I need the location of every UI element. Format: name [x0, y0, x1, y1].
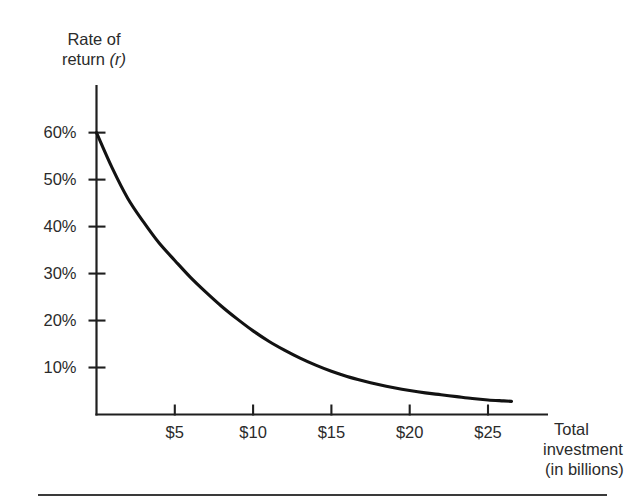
footer-divider-rule: [38, 494, 607, 496]
y-axis-tick-label: 60%: [21, 123, 77, 142]
x-axis-tick-label: $20: [380, 423, 440, 442]
x-axis-title: Total investment (in billions): [551, 419, 633, 479]
y-axis-tick-label: 50%: [21, 170, 77, 189]
y-axis-tick-label: 40%: [21, 217, 77, 236]
x-axis-title-line3: (in billions): [545, 459, 633, 479]
y-axis-tick-label: 30%: [21, 264, 77, 283]
x-axis-tick-label: $25: [458, 423, 518, 442]
y-axis-title-symbol: (r): [110, 50, 126, 68]
x-axis-title-line1: Total: [554, 419, 633, 439]
x-axis-title-line2: investment: [543, 439, 633, 459]
chart-figure: Rate of return (r) Total investment (in …: [0, 0, 633, 501]
x-axis-tick-label: $10: [223, 423, 283, 442]
investment-demand-curve-line: [97, 133, 512, 402]
y-axis-tick-label: 10%: [21, 358, 77, 377]
x-axis-tick-label: $15: [301, 423, 361, 442]
y-axis-title: Rate of return (r): [34, 29, 154, 69]
y-axis-tick-label: 20%: [21, 311, 77, 330]
x-axis-tick-label: $5: [145, 423, 205, 442]
y-axis-title-line2: return (r): [34, 49, 154, 69]
y-axis-title-word: return: [62, 50, 105, 68]
y-axis-title-line1: Rate of: [34, 29, 154, 49]
